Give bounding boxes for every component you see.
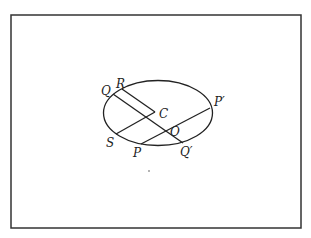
stray-dot bbox=[148, 170, 150, 172]
label-s: S bbox=[106, 136, 114, 150]
diagram-canvas: Q R C P′ O S P Q′ bbox=[0, 0, 311, 238]
segment-r-c bbox=[122, 89, 155, 112]
label-c: C bbox=[159, 107, 168, 121]
label-q: Q bbox=[101, 84, 111, 98]
label-r: R bbox=[115, 77, 125, 91]
label-p-prime: P′ bbox=[213, 95, 225, 109]
label-q-prime: Q′ bbox=[180, 145, 193, 159]
frame-border bbox=[11, 15, 301, 228]
label-o: O bbox=[170, 125, 180, 139]
label-p: P bbox=[132, 146, 142, 160]
segment-s-c bbox=[116, 112, 155, 134]
